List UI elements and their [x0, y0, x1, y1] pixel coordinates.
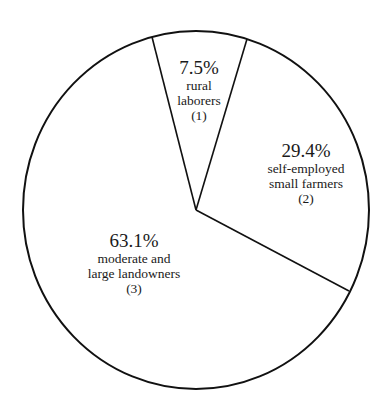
slice-3-percent: 63.1%: [109, 230, 158, 251]
slice-2-label-line2: small farmers: [269, 176, 343, 191]
slice-2-label-line1: self-employed: [267, 161, 344, 176]
pie-chart: 7.5% rural laborers (1) 29.4% self-emplo…: [0, 0, 388, 417]
slice-3-index: (3): [126, 281, 142, 296]
slice-1-percent: 7.5%: [179, 57, 219, 78]
slice-1-label-line1: rural: [186, 78, 212, 93]
slice-3-label-line1: moderate and: [97, 251, 170, 266]
slice-2-index: (2): [298, 191, 314, 206]
slice-2-percent: 29.4%: [281, 140, 330, 161]
slice-1-index: (1): [191, 108, 207, 123]
slice-3-label-line2: large landowners: [88, 266, 180, 281]
slice-1-label-line2: laborers: [177, 93, 220, 108]
